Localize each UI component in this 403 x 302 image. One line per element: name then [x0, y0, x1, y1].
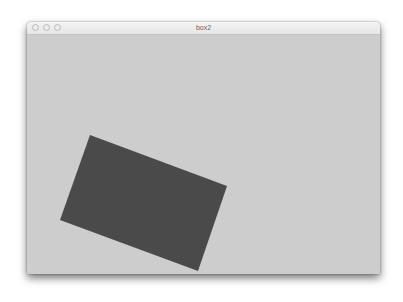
title-bar[interactable]: box2: [27, 22, 380, 35]
rectangle-shape: [27, 35, 380, 274]
window-title: box2: [27, 22, 380, 34]
drawing-canvas[interactable]: [27, 35, 380, 274]
rotated-box: [60, 135, 227, 271]
app-window: box2: [27, 22, 380, 274]
